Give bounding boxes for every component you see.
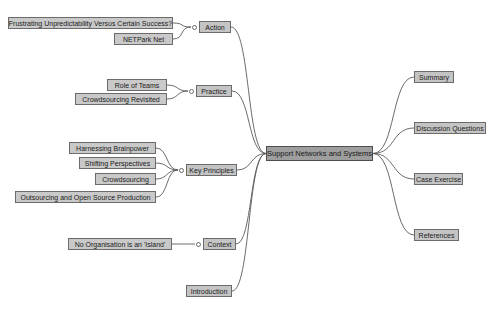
collapse-toggle-icon[interactable]	[196, 242, 201, 247]
mindmap-branch-references[interactable]: References	[414, 229, 459, 241]
mindmap-branch-label: Introduction	[191, 288, 228, 295]
collapse-toggle-icon[interactable]	[189, 89, 194, 94]
mindmap-branch-label: Summary	[419, 74, 449, 81]
mindmap-branch-label: Key Principles	[189, 167, 233, 174]
mindmap-leaf-node[interactable]: Frustrating Unpredictability Versus Cert…	[8, 17, 173, 29]
mindmap-branch-practice[interactable]: Practice	[196, 85, 232, 97]
mindmap-leaf-label: Crowdsourcing Revisited	[82, 96, 159, 103]
mindmap-leaf-node[interactable]: Crowdsourcing Revisited	[75, 93, 167, 105]
mindmap-edge	[232, 154, 266, 292]
mindmap-leaf-node[interactable]: Crowdsourcing	[95, 173, 156, 185]
mindmap-canvas: Support Networks and Systems Action Prac…	[0, 0, 490, 311]
mindmap-edge	[173, 27, 191, 39]
mindmap-edge	[373, 154, 414, 180]
mindmap-branch-action[interactable]: Action	[199, 21, 231, 33]
mindmap-leaf-label: Harnessing Brainpower	[76, 145, 149, 152]
mindmap-branch-discussion-questions[interactable]: Discussion Questions	[414, 122, 486, 134]
mindmap-edges	[0, 0, 490, 311]
mindmap-leaf-label: Crowdsourcing	[102, 176, 149, 183]
mindmap-root-label: Support Networks and Systems	[267, 150, 372, 158]
mindmap-branch-label: Action	[205, 24, 224, 31]
mindmap-edge	[373, 77, 414, 154]
mindmap-branch-case-exercise[interactable]: Case Exercise	[414, 173, 463, 185]
mindmap-leaf-label: Shifting Perspectives	[85, 160, 150, 167]
mindmap-leaf-node[interactable]: Shifting Perspectives	[79, 157, 156, 169]
mindmap-leaf-label: NETPark Net	[123, 36, 164, 43]
mindmap-branch-label: Practice	[201, 88, 226, 95]
mindmap-edge	[167, 85, 188, 91]
mindmap-leaf-label: Frustrating Unpredictability Versus Cert…	[9, 20, 172, 27]
collapse-toggle-icon[interactable]	[192, 25, 197, 30]
mindmap-branch-introduction[interactable]: Introduction	[186, 285, 232, 297]
mindmap-leaf-node[interactable]: No Organisation is an 'Island'	[68, 238, 172, 250]
mindmap-branch-key-principles[interactable]: Key Principles	[186, 164, 237, 176]
mindmap-edge	[173, 23, 191, 27]
mindmap-edge	[236, 154, 266, 245]
mindmap-edge	[167, 91, 188, 99]
mindmap-edge	[232, 91, 266, 154]
mindmap-branch-label: Discussion Questions	[416, 125, 483, 132]
mindmap-root-node[interactable]: Support Networks and Systems	[266, 146, 373, 161]
mindmap-leaf-node[interactable]: NETPark Net	[114, 33, 173, 45]
mindmap-leaf-node[interactable]: Role of Teams	[107, 79, 167, 91]
mindmap-branch-label: References	[419, 232, 455, 239]
mindmap-edge	[156, 170, 178, 179]
collapse-toggle-icon[interactable]	[179, 168, 184, 173]
mindmap-leaf-node[interactable]: Harnessing Brainpower	[69, 142, 156, 154]
mindmap-branch-summary[interactable]: Summary	[414, 71, 454, 83]
mindmap-leaf-label: Role of Teams	[115, 82, 160, 89]
mindmap-leaf-label: Outsourcing and Open Source Production	[21, 194, 151, 201]
mindmap-leaf-label: No Organisation is an 'Island'	[75, 241, 166, 248]
mindmap-edge	[231, 27, 266, 154]
mindmap-branch-label: Context	[207, 241, 231, 248]
mindmap-branch-label: Case Exercise	[416, 176, 461, 183]
mindmap-branch-context[interactable]: Context	[203, 238, 236, 250]
mindmap-edge	[373, 128, 414, 154]
mindmap-leaf-node[interactable]: Outsourcing and Open Source Production	[15, 191, 156, 203]
